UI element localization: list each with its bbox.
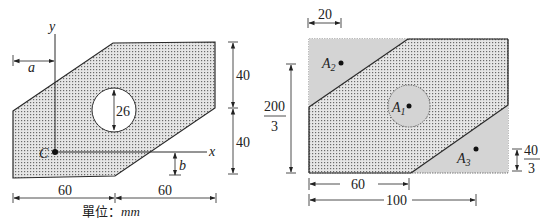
dim-a-label: a	[28, 60, 35, 75]
x-axis-label: x	[208, 144, 216, 159]
centroid-a2	[339, 61, 344, 66]
dim-right-width-label: 60	[158, 183, 172, 198]
dim-height-denominator: 3	[271, 119, 278, 134]
hole-diameter-label: 26	[116, 104, 130, 119]
right-figure: A2 A1 A3 20 200 3 40 3 60 100	[264, 7, 540, 208]
unit-label: 單位：mm	[82, 204, 140, 219]
dim-b-label: b	[179, 158, 186, 173]
dim-top-offset-label: 20	[318, 7, 332, 22]
centroid-point	[52, 149, 58, 155]
centroid-a1	[407, 104, 412, 109]
centroid-a3	[474, 147, 479, 152]
unit-prefix: 單位：	[82, 204, 121, 219]
dim-small-denominator: 3	[528, 161, 535, 176]
centroid-label: C	[39, 146, 49, 161]
dim-total-width-label: 100	[386, 193, 407, 208]
dim-bottom-height-label: 40	[236, 135, 250, 150]
dim-top-height-label: 40	[236, 68, 250, 83]
composite-area-diagram: 26 y x C a b 40 40 60 60 單位：mm	[0, 0, 544, 219]
dim-small-numerator: 40	[524, 143, 538, 158]
left-figure: 26 y x C a b 40 40 60 60 單位：mm	[13, 19, 250, 219]
dim-height-numerator: 200	[264, 99, 285, 114]
dim-left-width-label: 60	[58, 183, 72, 198]
dim-inner-width-label: 60	[351, 177, 365, 192]
y-axis-label: y	[47, 19, 56, 34]
unit-value: mm	[121, 204, 140, 219]
